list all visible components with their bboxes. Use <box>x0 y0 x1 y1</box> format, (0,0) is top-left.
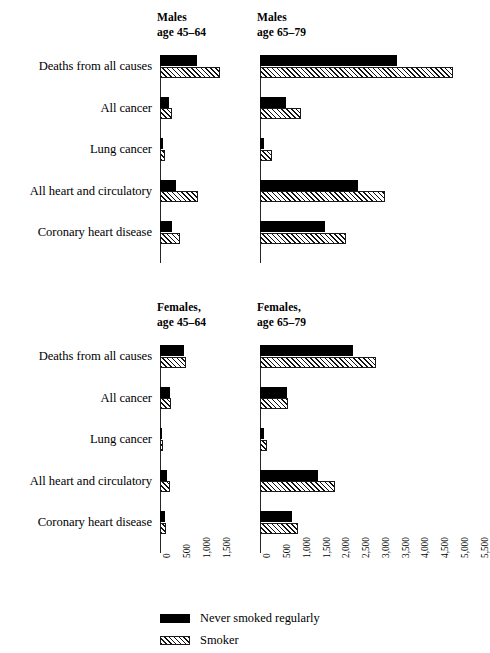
bar-never-smoked <box>260 138 264 149</box>
legend-label: Never smoked regularly <box>200 612 320 625</box>
x-axis-tick-label: 1,000 <box>303 537 312 558</box>
bar-never-smoked <box>260 97 286 108</box>
bar-smoker <box>160 398 171 409</box>
bar-smoker <box>160 108 172 119</box>
bar-smoker <box>160 150 165 161</box>
bar-never-smoked <box>260 221 325 232</box>
bar-never-smoked <box>160 138 163 149</box>
category-label-deaths-from-all-causes: Deaths from all causes <box>4 60 152 73</box>
bar-group <box>160 180 230 203</box>
bar-group <box>160 345 230 368</box>
x-axis-tick-label: 3,000 <box>382 537 391 558</box>
panel-header-females-65-79: Females, age 65–79 <box>257 300 306 329</box>
bar-group <box>260 180 485 203</box>
bar-smoker <box>160 440 163 451</box>
bar-group <box>260 97 485 120</box>
category-label-lung-cancer: Lung cancer <box>4 433 152 446</box>
bar-never-smoked <box>160 345 184 356</box>
bar-smoker <box>160 357 186 368</box>
x-axis-tick-label: 4,500 <box>441 537 450 558</box>
bar-never-smoked <box>160 221 172 232</box>
bar-never-smoked <box>160 55 197 66</box>
bar-never-smoked <box>260 387 287 398</box>
bar-smoker <box>260 481 335 492</box>
panel-males-45-64 <box>160 55 230 263</box>
category-label-lung-cancer: Lung cancer <box>4 143 152 156</box>
bar-group <box>260 387 485 410</box>
bar-group <box>160 387 230 410</box>
x-axis-tick-label: 1,000 <box>203 537 212 558</box>
x-axis-tick-label: 5,500 <box>481 537 490 558</box>
bar-group <box>260 221 485 244</box>
bar-group <box>160 428 230 451</box>
bar-smoker <box>260 67 453 78</box>
bar-never-smoked <box>160 511 165 522</box>
bar-group <box>260 470 485 493</box>
category-label-all-cancer: All cancer <box>4 392 152 405</box>
panel-header-males-65-79: Males age 65–79 <box>257 10 306 39</box>
bar-group <box>160 511 230 534</box>
bar-group <box>260 428 485 451</box>
x-axis-tick-label: 0 <box>263 553 272 558</box>
bar-smoker <box>260 398 288 409</box>
legend-label: Smoker <box>200 634 239 647</box>
bar-never-smoked <box>160 387 170 398</box>
category-label-coronary-heart-disease: Coronary heart disease <box>4 516 152 529</box>
chart-figure: Deaths from all causesAll cancerLung can… <box>0 0 490 653</box>
category-label-all-heart-and-circulatory: All heart and circulatory <box>4 475 152 488</box>
x-axis-tick-label: 5,000 <box>461 537 470 558</box>
x-axis-tick-label: 2,500 <box>362 537 371 558</box>
x-axis-tick-label: 3,500 <box>402 537 411 558</box>
bar-smoker <box>160 481 170 492</box>
bar-group <box>160 470 230 493</box>
bar-smoker <box>160 191 198 202</box>
bar-never-smoked <box>260 180 358 191</box>
bar-never-smoked <box>260 470 318 481</box>
panel-females-45-64 <box>160 345 230 553</box>
x-axis-tick-label: 1,500 <box>223 537 232 558</box>
category-label-coronary-heart-disease: Coronary heart disease <box>4 226 152 239</box>
x-axis-tick-label: 1,500 <box>323 537 332 558</box>
bar-never-smoked <box>260 428 264 439</box>
bar-never-smoked <box>160 428 162 439</box>
bar-smoker <box>260 150 272 161</box>
bar-never-smoked <box>160 180 176 191</box>
x-axis-tick-label: 0 <box>163 553 172 558</box>
panel-males-65-79 <box>260 55 485 263</box>
legend-swatch-never-smoked-icon <box>160 614 190 623</box>
bar-never-smoked <box>260 511 292 522</box>
bar-group <box>160 97 230 120</box>
x-axis-tick-label: 500 <box>283 544 292 558</box>
category-label-all-cancer: All cancer <box>4 102 152 115</box>
panel-females-65-79 <box>260 345 485 553</box>
x-axis-tick-label: 2,000 <box>342 537 351 558</box>
bar-group <box>160 138 230 161</box>
x-axis-tick-label: 500 <box>183 544 192 558</box>
bar-smoker <box>260 523 298 534</box>
bar-never-smoked <box>160 470 167 481</box>
x-axis-tick-label: 4,000 <box>421 537 430 558</box>
bar-smoker <box>160 67 220 78</box>
bar-smoker <box>260 357 376 368</box>
bar-smoker <box>260 191 385 202</box>
bar-group <box>160 221 230 244</box>
category-label-all-heart-and-circulatory: All heart and circulatory <box>4 185 152 198</box>
bar-group <box>260 138 485 161</box>
bar-smoker <box>160 523 166 534</box>
bar-smoker <box>260 108 301 119</box>
bar-group <box>260 345 485 368</box>
bar-smoker <box>260 440 267 451</box>
legend-swatch-smoker-icon <box>160 636 190 645</box>
panel-header-males-45-64: Males age 45–64 <box>157 10 206 39</box>
bar-never-smoked <box>260 55 397 66</box>
bar-group <box>260 511 485 534</box>
panel-header-females-45-64: Females, age 45–64 <box>157 300 206 329</box>
bar-smoker <box>260 233 346 244</box>
bar-smoker <box>160 233 180 244</box>
bar-never-smoked <box>260 345 353 356</box>
bar-group <box>160 55 230 78</box>
bar-group <box>260 55 485 78</box>
bar-never-smoked <box>160 97 169 108</box>
category-label-deaths-from-all-causes: Deaths from all causes <box>4 350 152 363</box>
